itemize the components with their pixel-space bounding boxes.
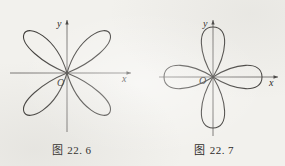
caption-number: 22. 7 (210, 144, 234, 156)
x-axis-label: x (121, 73, 127, 84)
x-axis-arrow-icon (127, 71, 132, 74)
petal-upper-left (24, 31, 67, 73)
caption-number: 22. 6 (67, 144, 91, 156)
origin-label: O (199, 75, 206, 86)
caption-prefix: 图 (194, 144, 206, 157)
caption-prefix: 图 (52, 144, 64, 157)
y-axis-label: y (202, 18, 208, 29)
figure-page: x y O 图 22. 6 (0, 0, 285, 166)
figure-22-7-caption: 图 22. 7 (143, 141, 285, 157)
y-axis-label: y (56, 18, 62, 29)
figure-22-7: x y O 图 22. 7 (143, 0, 285, 166)
figure-22-6-plot: x y O (0, 0, 143, 140)
petal-upper-right (67, 31, 110, 73)
rose-curve-diagonal-svg: x y O (0, 0, 143, 140)
y-axis-arrow-icon (211, 20, 214, 25)
figure-22-6: x y O 图 22. 6 (0, 0, 143, 166)
rose-curve-axial-svg: x y O (143, 0, 285, 140)
figure-22-6-caption: 图 22. 6 (0, 141, 143, 157)
x-axis-arrow-icon (274, 75, 279, 78)
x-axis-label: x (268, 77, 274, 88)
x-axis (159, 75, 278, 78)
figure-22-7-plot: x y O (143, 0, 285, 140)
petal-lower-right (67, 73, 110, 115)
origin-label: O (57, 77, 64, 88)
y-axis-arrow-icon (65, 20, 68, 25)
